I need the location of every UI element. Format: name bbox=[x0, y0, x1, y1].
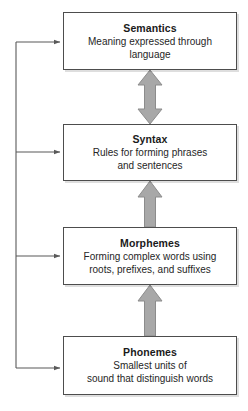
node-phonemes-desc-line-1: Smallest units of bbox=[109, 359, 190, 372]
node-morphemes-desc-line-1: Forming complex words using bbox=[80, 250, 221, 263]
semantics-syntax-arrow bbox=[138, 70, 162, 124]
node-semantics-title: Semantics bbox=[123, 22, 176, 35]
node-syntax-desc-line-1: Rules for forming phrases bbox=[89, 146, 212, 159]
node-semantics-desc-line-1: Meaning expressed through bbox=[84, 35, 216, 48]
linguistics-hierarchy-diagram: Semantics Meaning expressed through lang… bbox=[0, 0, 248, 411]
node-phonemes-title: Phonemes bbox=[123, 346, 177, 359]
node-morphemes[interactable]: Morphemes Forming complex words using ro… bbox=[63, 227, 237, 285]
node-syntax[interactable]: Syntax Rules for forming phrases and sen… bbox=[63, 124, 237, 181]
node-syntax-desc-line-2: and sentences bbox=[113, 159, 186, 172]
feedback-trunk bbox=[16, 42, 60, 368]
node-morphemes-title: Morphemes bbox=[120, 237, 180, 250]
morphemes-phonemes-arrow bbox=[138, 285, 162, 336]
node-semantics-desc-line-2: language bbox=[125, 48, 174, 61]
syntax-morphemes-arrow bbox=[138, 181, 162, 227]
node-morphemes-desc-line-2: roots, prefixes, and suffixes bbox=[85, 263, 215, 276]
node-phonemes[interactable]: Phonemes Smallest units of sound that di… bbox=[63, 336, 237, 395]
node-phonemes-desc-line-2: sound that distinguish words bbox=[83, 372, 217, 385]
node-syntax-title: Syntax bbox=[132, 133, 167, 146]
node-semantics[interactable]: Semantics Meaning expressed through lang… bbox=[63, 12, 237, 70]
